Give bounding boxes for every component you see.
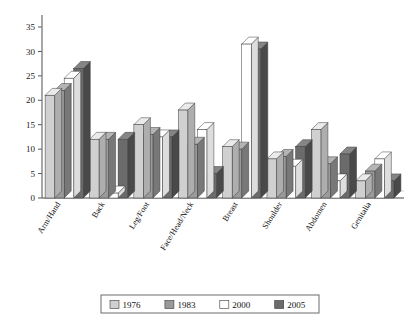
chart-canvas: 05101520253035Arm/HandBackLeg/FootFace/H… bbox=[0, 0, 420, 333]
y-axis-tick-label: 35 bbox=[26, 22, 36, 32]
bar-side-face bbox=[350, 147, 357, 198]
bar-front-face bbox=[311, 130, 321, 198]
bar-side-face bbox=[188, 103, 195, 198]
bar bbox=[45, 88, 62, 198]
bar bbox=[223, 140, 240, 198]
legend-swatch bbox=[165, 301, 174, 309]
bar-front-face bbox=[356, 181, 366, 198]
bar-front-face bbox=[178, 110, 188, 198]
bar-front-face bbox=[223, 147, 233, 198]
bar-side-face bbox=[321, 123, 328, 198]
bar-side-face bbox=[197, 137, 204, 198]
legend-swatch bbox=[220, 301, 229, 309]
bar-side-face bbox=[143, 118, 150, 198]
bar-side-face bbox=[384, 152, 391, 198]
bar-side-face bbox=[251, 37, 258, 198]
legend-swatch bbox=[110, 301, 119, 309]
y-axis-tick-label: 0 bbox=[31, 193, 36, 203]
bar-side-face bbox=[74, 71, 81, 198]
y-axis-tick-label: 15 bbox=[26, 120, 36, 130]
bar-side-face bbox=[64, 84, 71, 198]
legend: 1976198320002005 bbox=[101, 295, 319, 313]
bar-side-face bbox=[277, 152, 284, 198]
bar-front-face bbox=[267, 159, 277, 198]
bar-side-face bbox=[232, 140, 239, 198]
bar-side-face bbox=[153, 127, 160, 198]
bar-side-face bbox=[172, 130, 179, 198]
y-axis-tick-label: 10 bbox=[26, 144, 36, 154]
bar-side-face bbox=[128, 132, 135, 198]
legend-label: 1983 bbox=[177, 300, 196, 310]
bar bbox=[267, 152, 284, 198]
bar-side-face bbox=[83, 62, 90, 198]
y-axis-tick-label: 5 bbox=[31, 169, 36, 179]
bar-side-face bbox=[207, 123, 214, 198]
bar-side-face bbox=[162, 130, 169, 198]
bar bbox=[134, 118, 151, 198]
bar-front-face bbox=[45, 95, 55, 198]
bar bbox=[89, 132, 106, 198]
bar-chart: 05101520253035Arm/HandBackLeg/FootFace/H… bbox=[0, 0, 420, 333]
bar-side-face bbox=[55, 88, 62, 198]
bar-side-face bbox=[305, 140, 312, 198]
legend-swatch bbox=[275, 301, 284, 309]
y-axis-tick-label: 20 bbox=[26, 95, 36, 105]
bar-side-face bbox=[261, 42, 268, 198]
bar-side-face bbox=[286, 149, 293, 198]
bar-side-face bbox=[242, 142, 249, 198]
legend-label: 2005 bbox=[287, 300, 306, 310]
bar bbox=[311, 123, 328, 198]
bar-side-face bbox=[99, 132, 106, 198]
y-axis-tick-label: 25 bbox=[26, 71, 36, 81]
y-axis-tick-label: 30 bbox=[26, 47, 36, 57]
bar-front-face bbox=[89, 139, 99, 198]
bar-side-face bbox=[109, 132, 116, 198]
bar bbox=[178, 103, 195, 198]
legend-label: 2000 bbox=[232, 300, 251, 310]
legend-label: 1976 bbox=[123, 300, 142, 310]
bar-front-face bbox=[134, 125, 144, 198]
